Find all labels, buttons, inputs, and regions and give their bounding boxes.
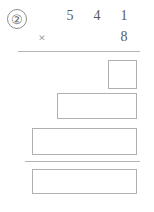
long-multiplication-worksheet: ② 5 4 1 × 8: [0, 0, 154, 212]
divider-above-total: [25, 161, 140, 162]
answer-box-partial-product-3[interactable]: [32, 128, 137, 155]
answer-box-partial-product-1[interactable]: [108, 60, 137, 89]
multiplicand-digit-tens: 4: [91, 9, 103, 23]
divider-above-partials: [18, 51, 140, 52]
multiplication-operator-icon: ×: [36, 31, 48, 44]
multiplicand-digit-ones: 1: [118, 9, 130, 23]
answer-box-total-product[interactable]: [32, 169, 137, 194]
multiplier-digit: 8: [118, 30, 130, 44]
multiplicand-digit-hundreds: 5: [64, 9, 76, 23]
problem-number-badge: ②: [7, 9, 27, 29]
answer-box-partial-product-2[interactable]: [57, 93, 137, 119]
